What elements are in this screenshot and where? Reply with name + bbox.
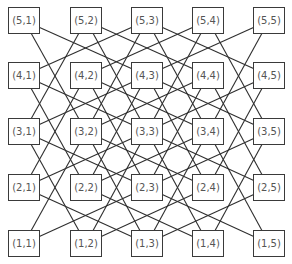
node-label: (1,1) [12,238,36,249]
node-2-3: (2,3) [131,174,163,201]
node-label: (3,5) [257,126,281,137]
node-label: (1,4) [196,238,220,249]
node-5-3: (5,3) [131,7,163,34]
node-5-2: (5,2) [70,7,102,34]
node-1-5: (1,5) [253,230,285,257]
node-3-5: (3,5) [253,118,285,145]
node-label: (5,4) [196,15,220,26]
node-label: (2,4) [196,182,220,193]
node-2-4: (2,4) [192,174,224,201]
node-label: (2,5) [257,182,281,193]
node-5-1: (5,1) [8,7,40,34]
node-label: (5,2) [74,15,98,26]
node-label: (2,1) [12,182,36,193]
node-3-1: (3,1) [8,118,40,145]
node-1-1: (1,1) [8,230,40,257]
node-label: (3,4) [196,126,220,137]
node-4-1: (4,1) [8,62,40,89]
node-4-2: (4,2) [70,62,102,89]
node-label: (2,2) [74,182,98,193]
node-label: (4,2) [74,70,98,81]
node-1-3: (1,3) [131,230,163,257]
node-label: (1,3) [135,238,159,249]
node-label: (2,3) [135,182,159,193]
node-label: (3,3) [135,126,159,137]
node-label: (5,1) [12,15,36,26]
node-label: (1,5) [257,238,281,249]
node-1-4: (1,4) [192,230,224,257]
node-label: (1,2) [74,238,98,249]
node-label: (4,4) [196,70,220,81]
node-label: (3,2) [74,126,98,137]
node-1-2: (1,2) [70,230,102,257]
node-4-4: (4,4) [192,62,224,89]
node-5-5: (5,5) [253,7,285,34]
node-2-2: (2,2) [70,174,102,201]
node-label: (4,1) [12,70,36,81]
node-label: (4,5) [257,70,281,81]
node-label: (3,1) [12,126,36,137]
node-2-1: (2,1) [8,174,40,201]
node-4-3: (4,3) [131,62,163,89]
node-label: (5,3) [135,15,159,26]
node-2-5: (2,5) [253,174,285,201]
node-3-2: (3,2) [70,118,102,145]
node-label: (5,5) [257,15,281,26]
node-label: (4,3) [135,70,159,81]
node-3-3: (3,3) [131,118,163,145]
node-4-5: (4,5) [253,62,285,89]
node-3-4: (3,4) [192,118,224,145]
node-5-4: (5,4) [192,7,224,34]
